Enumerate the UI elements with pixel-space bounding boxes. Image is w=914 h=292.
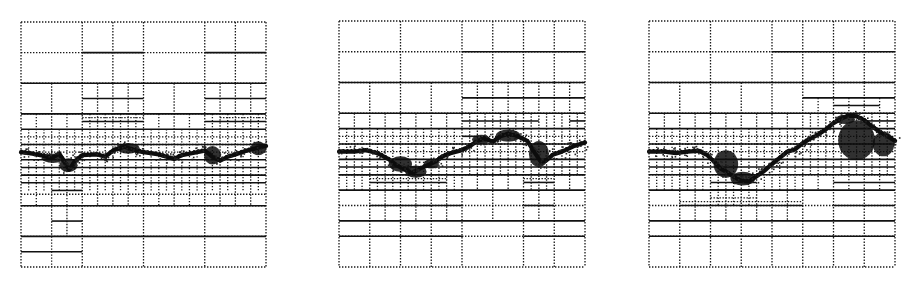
refinement-boundaries [339, 52, 585, 237]
mesh-panel-3 [649, 21, 895, 267]
mesh-grid [339, 21, 585, 267]
mesh-panel-1 [21, 22, 266, 267]
mesh-panel-2 [339, 21, 585, 267]
mesh-grid [21, 22, 266, 267]
mesh-grid [649, 21, 895, 267]
